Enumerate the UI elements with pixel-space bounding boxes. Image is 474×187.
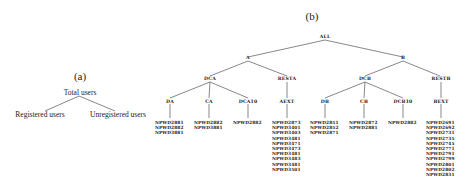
leaf-item: NPWD2881 bbox=[349, 125, 377, 130]
leaf-list-dca10: NPWD2882 bbox=[233, 120, 261, 125]
node-resta: RESTA bbox=[278, 76, 296, 81]
leaf-item: NPWD3881 bbox=[194, 125, 222, 130]
node-ca: CA bbox=[205, 99, 213, 104]
node-dca: DCA bbox=[204, 76, 216, 81]
leaf-list-aext: NPWD2873 NPWD3401 NPWD3403 NPWD3481 NPWD… bbox=[272, 120, 300, 172]
leaf-list-da: NPWD2881 NPWD2882 NPWD3881 bbox=[155, 120, 183, 136]
node-all: ALL bbox=[320, 34, 331, 39]
node-bext: BEXT bbox=[433, 99, 448, 104]
leaf-item: NPWD2799 bbox=[426, 156, 454, 161]
node-da: DA bbox=[166, 99, 174, 104]
leaf-item: NPWD3483 bbox=[272, 156, 300, 161]
node-total-users: Total users bbox=[64, 88, 97, 97]
leaf-item: NPWD3501 bbox=[272, 167, 300, 172]
node-db: DB bbox=[321, 99, 329, 104]
node-registered-users: Registered users bbox=[15, 110, 64, 119]
panel-b-caption: (b) bbox=[306, 10, 319, 22]
leaf-item: NPWD2831 bbox=[426, 172, 454, 177]
leaf-item: NPWD2731 bbox=[426, 130, 454, 135]
leaf-item: NPWD3881 bbox=[155, 130, 183, 135]
node-b: B bbox=[401, 55, 405, 60]
leaf-list-ca: NPWD2882 NPWD3881 bbox=[194, 120, 222, 130]
node-aext: AEXT bbox=[280, 99, 295, 104]
node-restb: RESTB bbox=[432, 76, 451, 81]
leaf-list-db: NPWD2851 NPWD2852 NPWD2871 bbox=[310, 120, 338, 136]
node-dcb10: DCB10 bbox=[394, 99, 413, 104]
panel-a-caption: (a) bbox=[74, 70, 86, 82]
leaf-item: NPWD2871 bbox=[310, 130, 338, 135]
leaf-item: NPWD2882 bbox=[233, 120, 261, 125]
leaf-item: NPWD2882 bbox=[388, 120, 416, 125]
node-cb: CB bbox=[360, 99, 368, 104]
node-a: A bbox=[246, 55, 250, 60]
leaf-list-bext: NPWD2691 NPWD2692 NPWD2731 NPWD2735 NPWD… bbox=[426, 120, 454, 177]
leaf-list-dcb10: NPWD2882 bbox=[388, 120, 416, 125]
node-dcb: DCB bbox=[359, 76, 371, 81]
node-dca10: DCA10 bbox=[239, 99, 258, 104]
leaf-item: NPWD3403 bbox=[272, 130, 300, 135]
leaf-list-cb: NPWD2872 NPWD2881 bbox=[349, 120, 377, 130]
node-unregistered-users: Unregistered users bbox=[90, 110, 146, 119]
